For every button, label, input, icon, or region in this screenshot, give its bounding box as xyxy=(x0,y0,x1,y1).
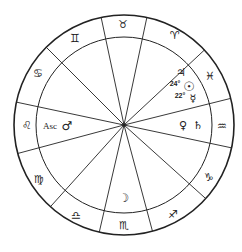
house-cusp-line xyxy=(50,125,124,207)
planet-placements: ♃ ☉ 24° ☿ 22° ♀ ♄ ♂ ☽ Asc xyxy=(43,66,203,206)
house-cusp-line xyxy=(101,17,124,125)
leo-icon: ♌ xyxy=(22,119,32,132)
ascendant-label: Asc xyxy=(43,121,57,131)
libra-icon: ♎ xyxy=(71,209,81,222)
cancer-icon: ♋ xyxy=(33,67,43,80)
sun-degree-label: 24° xyxy=(170,80,181,87)
saturn-icon: ♄ xyxy=(193,119,203,132)
moon-icon: ☽ xyxy=(119,191,130,205)
mercury-degree-label: 22° xyxy=(175,92,186,99)
center-hub xyxy=(122,123,126,127)
house-cusp-line xyxy=(124,17,147,125)
taurus-icon: ♉ xyxy=(118,18,128,31)
aries-icon: ♈ xyxy=(170,29,180,42)
virgo-icon: ♍ xyxy=(34,173,44,186)
gemini-icon: ♊ xyxy=(70,32,80,45)
venus-icon: ♀ xyxy=(179,119,187,132)
house-cusp-line xyxy=(46,47,124,125)
scorpio-icon: ♏ xyxy=(119,219,129,232)
mercury-icon: ☿ xyxy=(190,92,197,105)
jupiter-icon: ♃ xyxy=(176,66,186,79)
capricorn-icon: ♑ xyxy=(204,171,214,184)
house-cusp-line xyxy=(124,125,152,231)
house-cusp-line xyxy=(99,125,124,232)
aquarius-icon: ♒ xyxy=(217,120,227,133)
house-cusp-line xyxy=(124,98,231,125)
mars-icon: ♂ xyxy=(62,119,73,133)
house-cusp-line xyxy=(124,125,232,148)
astrology-chart: ♉ ♈ ♓ ♒ ♑ ♐ ♏ ♎ ♍ ♌ ♋ ♊ ♃ ☉ 24° ☿ 22° ♀ … xyxy=(0,0,242,252)
house-cusp-line xyxy=(124,125,206,199)
sagittarius-icon: ♐ xyxy=(168,208,178,221)
pisces-icon: ♓ xyxy=(205,70,215,83)
